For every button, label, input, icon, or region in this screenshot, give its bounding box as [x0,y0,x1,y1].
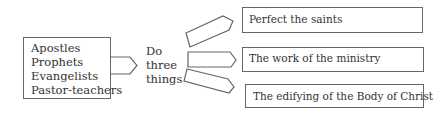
arrow-to-perfect-saints [186,16,233,47]
target-box-work-of-ministry: The work of the ministry [242,47,424,72]
source-item-evangelists: Evangelists [31,69,110,83]
target-box-edifying-body: The edifying of the Body of Christ [245,84,424,108]
source-item-pastor-teachers: Pastor-teachers [31,83,110,97]
arrow-to-work-of-ministry [188,52,236,67]
source-item-prophets: Prophets [31,55,110,69]
target-label: The work of the ministry [249,52,380,64]
target-box-perfect-saints: Perfect the saints [242,7,423,33]
connector-label: Do three things [146,44,182,86]
connector-label-line: three [146,58,182,72]
connector-label-line: things [146,72,182,86]
source-item-apostles: Apostles [31,41,110,55]
source-group-box: Apostles Prophets Evangelists Pastor-tea… [23,37,111,99]
target-label: Perfect the saints [249,13,342,25]
target-label: The edifying of the Body of Christ [253,90,433,102]
arrow-to-edifying-body [184,69,234,93]
connector-label-line: Do [146,44,182,58]
